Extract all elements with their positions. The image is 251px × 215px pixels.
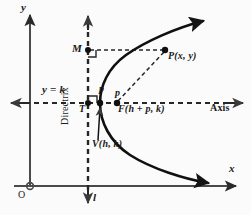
point-t-dot: [85, 100, 91, 106]
segment-p-left-label: p: [99, 84, 104, 94]
focus-label: F(h + p, k): [118, 104, 165, 114]
origin-label: O: [18, 190, 25, 200]
point-vertex-dot: [97, 100, 103, 106]
y-axis-label: y: [21, 2, 26, 13]
segment-fp: [118, 52, 164, 101]
point-t-label: T: [79, 104, 85, 114]
vertex-label: V(h, k): [92, 139, 122, 149]
axis-of-symmetry-label: Axis: [210, 103, 230, 113]
directrix-name-label: Directrix: [60, 87, 70, 125]
directrix-line-label: l: [93, 192, 96, 203]
point-m-dot: [85, 47, 91, 53]
parabola-figure: y x O M T y = k p p P(x, y) F(h + p, k) …: [0, 0, 251, 215]
point-m-label: M: [72, 43, 82, 54]
segment-p-right-label: p: [115, 88, 120, 98]
point-p-label: P(x, y): [168, 51, 197, 61]
x-axis-label: x: [229, 163, 235, 174]
vertex-pointer-arrow: [98, 108, 100, 140]
